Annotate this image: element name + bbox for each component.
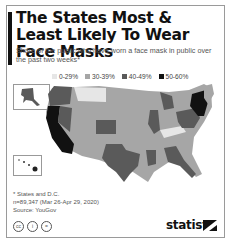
hawaii-inset (13, 155, 42, 176)
chart-subtitle: Share of the public who have worn a face… (16, 46, 216, 64)
legend-swatch (122, 74, 127, 79)
note-source: Source: YouGov (13, 206, 99, 214)
legend: 0-29% 30-39% 40-49% 50-60% (52, 73, 188, 80)
legend-item-30-39: 30-39% (85, 73, 115, 80)
no-derivatives-icon[interactable]: = (41, 221, 52, 232)
hawaii-shape (14, 156, 41, 175)
cc-icon[interactable]: cc (13, 221, 24, 232)
chart-notes: * States and D.C. n=89,347 (Mar 26-Apr 2… (13, 190, 99, 214)
state-montana (74, 87, 106, 102)
statista-logo-icon (203, 220, 217, 231)
legend-swatch (159, 74, 164, 79)
legend-item-0-29: 0-29% (52, 73, 78, 80)
state-washington-oregon (48, 86, 72, 106)
attribution-icon[interactable]: i (27, 221, 38, 232)
legend-item-40-49: 40-49% (122, 73, 152, 80)
us-map (44, 82, 224, 187)
legend-swatch (52, 74, 57, 79)
legend-swatch (85, 74, 90, 79)
legend-item-50-60: 50-60% (159, 73, 189, 80)
title-accent-bar (8, 12, 12, 65)
note-states: * States and D.C. (13, 190, 99, 198)
license-icons: cc i = (13, 221, 52, 232)
note-sample: n=89,347 (Mar 26-Apr 29, 2020) (13, 198, 99, 206)
state-colorado (96, 120, 116, 134)
